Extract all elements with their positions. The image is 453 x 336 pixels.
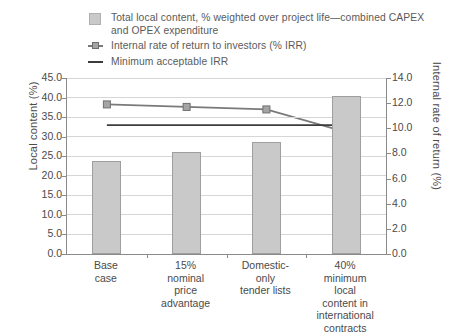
x-axis-tick [306,254,307,258]
y-axis-title-left: Local content (%) [27,46,39,206]
y-axis-tick-left [62,195,66,196]
y-axis-tick-left [62,234,66,235]
y-axis-tick-label-right: 4.0 [392,197,438,209]
y-axis-tick-label-left: 10.0 [16,208,62,220]
y-axis-tick-label-right: 0.0 [392,247,438,259]
y-axis-tick-label-left: 25.0 [16,149,62,161]
legend-item-irr: Internal rate of return to investors (% … [88,40,428,53]
y-axis-tick-right [387,103,391,104]
x-axis-label: 40%minimumlocalcontent ininternationalco… [305,259,385,335]
chart-legend: Total local content, % weighted over pro… [88,12,428,72]
x-axis-label-line: Base [66,259,146,272]
x-axis-label-line: international [305,309,385,322]
y-axis-tick-left [62,254,66,255]
x-axis-label-line: tender lists [226,284,306,297]
bar-swatch-icon [88,12,104,25]
y-axis-tick-right [387,78,391,79]
legend-label-local-content: Total local content, % weighted over pro… [111,12,428,37]
y-axis-tick-label-left: 30.0 [16,130,62,142]
y-axis-tick-label-right: 14.0 [392,71,438,83]
line-data-point-marker [183,103,190,110]
legend-label-min-irr: Minimum acceptable IRR [111,56,228,69]
y-axis-tick-right [387,128,391,129]
plot-area [66,78,387,255]
x-axis-label-line: Domestic- [226,259,306,272]
x-axis-label-line: price [146,284,226,297]
line-data-point-marker [263,106,270,113]
y-axis-tick-left [62,215,66,216]
y-axis-tick-left [62,156,66,157]
x-axis-label-line: local [305,284,385,297]
plain-line-swatch-icon [88,56,104,69]
bar [92,161,121,254]
x-axis-label-line: only [226,272,306,285]
y-axis-tick-left [62,78,66,79]
x-axis-label-line: advantage [146,297,226,310]
y-axis-tick-left [62,176,66,177]
x-axis-label-line: minimum [305,272,385,285]
line-data-point-marker [103,101,110,108]
y-axis-tick-right [387,229,391,230]
bar [172,152,201,254]
y-axis-tick-label-right: 12.0 [392,96,438,108]
y-axis-tick-label-left: 15.0 [16,188,62,200]
y-axis-tick-label-left: 5.0 [16,227,62,239]
y-axis-tick-label-left: 35.0 [16,110,62,122]
x-axis-label-line: 40% [305,259,385,272]
x-axis-label: 15%nominalpriceadvantage [146,259,226,309]
x-axis-tick [227,254,228,258]
x-axis-label-line: content in [305,297,385,310]
x-axis-label-line: 15% [146,259,226,272]
y-axis-tick-label-left: 40.0 [16,91,62,103]
line-series [107,104,346,132]
y-axis-tick-right [387,254,391,255]
x-axis-label: Basecase [66,259,146,284]
legend-label-irr: Internal rate of return to investors (% … [111,40,307,53]
y-axis-tick-right [387,179,391,180]
legend-item-local-content: Total local content, % weighted over pro… [88,12,428,37]
y-axis-tick-label-left: 45.0 [16,71,62,83]
y-axis-tick-left [62,117,66,118]
y-axis-tick-left [62,137,66,138]
y-axis-tick-label-right: 10.0 [392,121,438,133]
legend-item-min-irr: Minimum acceptable IRR [88,56,428,69]
line-marker-swatch-icon [88,40,104,53]
x-axis-label: Domestic-onlytender lists [226,259,306,297]
y-axis-tick-label-left: 20.0 [16,169,62,181]
bar [252,142,281,254]
y-axis-tick-right [387,153,391,154]
y-axis-tick-label-right: 6.0 [392,172,438,184]
x-axis-tick [147,254,148,258]
chart-figure: Total local content, % weighted over pro… [0,0,453,336]
y-axis-tick-label-right: 8.0 [392,146,438,158]
y-axis-tick-left [62,98,66,99]
y-axis-tick-label-right: 2.0 [392,222,438,234]
gridline [67,78,386,79]
x-axis-labels: Basecase15%nominalpriceadvantageDomestic… [66,259,385,334]
x-axis-label-line: nominal [146,272,226,285]
x-axis-label-line: case [66,272,146,285]
y-axis-tick-right [387,204,391,205]
x-axis-label-line: contracts [305,322,385,335]
y-axis-tick-label-left: 0.0 [16,247,62,259]
bar [332,96,361,254]
